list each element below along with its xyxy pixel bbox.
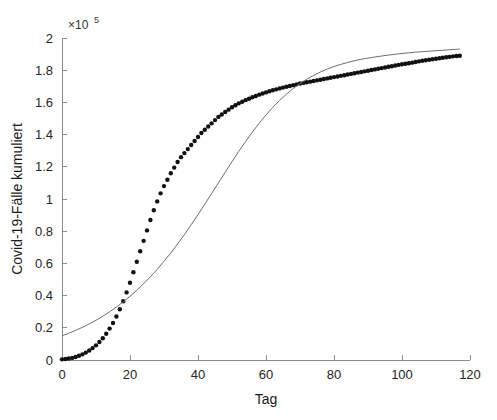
y-tick-label: 1.6 bbox=[35, 95, 53, 110]
x-tick-label: 20 bbox=[123, 367, 137, 382]
data-point-marker bbox=[124, 290, 128, 294]
data-point-marker bbox=[114, 314, 118, 318]
data-point-marker bbox=[97, 340, 101, 344]
y-tick-label: 0.2 bbox=[35, 320, 53, 335]
data-point-marker bbox=[111, 321, 115, 325]
y-axis-title: Covid-19-Fälle kumuliert bbox=[9, 123, 25, 275]
data-point-marker bbox=[90, 346, 94, 350]
y-tick-label: 0.8 bbox=[35, 224, 53, 239]
y-tick-label: 0 bbox=[46, 353, 53, 368]
x-tick-label: 0 bbox=[58, 367, 65, 382]
data-point-marker bbox=[458, 54, 462, 58]
data-point-marker bbox=[175, 160, 179, 164]
data-point-marker bbox=[192, 139, 196, 143]
data-point-marker bbox=[169, 171, 173, 175]
data-point-marker bbox=[203, 128, 207, 132]
data-point-marker bbox=[179, 155, 183, 159]
x-tick-label: 60 bbox=[259, 367, 273, 382]
data-point-marker bbox=[145, 228, 149, 232]
data-point-marker bbox=[107, 326, 111, 330]
data-point-marker bbox=[172, 165, 176, 169]
data-point-marker bbox=[155, 199, 159, 203]
x-tick-label: 40 bbox=[191, 367, 205, 382]
x-axis-title: Tag bbox=[255, 391, 278, 407]
data-series-0 bbox=[60, 54, 462, 362]
data-point-marker bbox=[189, 143, 193, 147]
y-tick-label: 1.2 bbox=[35, 159, 53, 174]
y-tick-label: 1.8 bbox=[35, 63, 53, 78]
data-point-marker bbox=[213, 118, 217, 122]
model-fit-line bbox=[62, 49, 460, 336]
y-tick-label: 0.4 bbox=[35, 288, 53, 303]
x-tick-label: 120 bbox=[459, 367, 481, 382]
data-point-marker bbox=[128, 281, 132, 285]
x-tick-label: 80 bbox=[327, 367, 341, 382]
exponent-base-text: ×10 bbox=[68, 18, 89, 32]
data-point-marker bbox=[138, 249, 142, 253]
data-point-marker bbox=[135, 260, 139, 264]
matlab-figure: 00.20.40.60.811.21.41.61.820204060801001… bbox=[0, 0, 497, 420]
y-tick-label: 0.6 bbox=[35, 256, 53, 271]
data-point-marker bbox=[118, 307, 122, 311]
data-point-marker bbox=[182, 151, 186, 155]
y-tick-label: 2 bbox=[46, 31, 53, 46]
chart-page: 00.20.40.60.811.21.41.61.820204060801001… bbox=[0, 0, 497, 420]
data-point-marker bbox=[206, 124, 210, 128]
data-point-marker bbox=[165, 177, 169, 181]
y-tick-label: 1 bbox=[46, 192, 53, 207]
plot-canvas: 00.20.40.60.811.21.41.61.820204060801001… bbox=[0, 0, 497, 420]
x-tick-label: 100 bbox=[391, 367, 413, 382]
data-point-marker bbox=[141, 239, 145, 243]
data-point-marker bbox=[158, 191, 162, 195]
data-point-marker bbox=[104, 332, 108, 336]
data-point-marker bbox=[94, 343, 98, 347]
data-point-marker bbox=[131, 270, 135, 274]
data-series-1 bbox=[62, 49, 460, 336]
data-point-marker bbox=[101, 336, 105, 340]
data-point-marker bbox=[148, 218, 152, 222]
data-point-marker bbox=[209, 121, 213, 125]
y-axis-exponent-label: ×105 bbox=[68, 15, 99, 32]
series-group bbox=[60, 49, 462, 361]
data-point-marker bbox=[186, 147, 190, 151]
y-tick-label: 1.4 bbox=[35, 127, 53, 142]
axes-group: 00.20.40.60.811.21.41.61.820204060801001… bbox=[35, 31, 481, 383]
exponent-power-text: 5 bbox=[94, 15, 99, 25]
data-point-marker bbox=[162, 184, 166, 188]
data-point-marker bbox=[152, 208, 156, 212]
data-point-marker bbox=[199, 131, 203, 135]
data-point-marker bbox=[196, 135, 200, 139]
